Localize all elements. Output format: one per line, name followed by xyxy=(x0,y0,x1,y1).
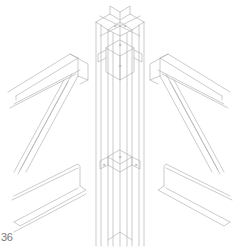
right-bracket-arm xyxy=(150,54,232,226)
left-bracket-arm xyxy=(8,54,88,232)
central-column xyxy=(96,6,144,246)
figure-number: 36 xyxy=(1,231,13,243)
isometric-column-drawing xyxy=(0,0,238,249)
